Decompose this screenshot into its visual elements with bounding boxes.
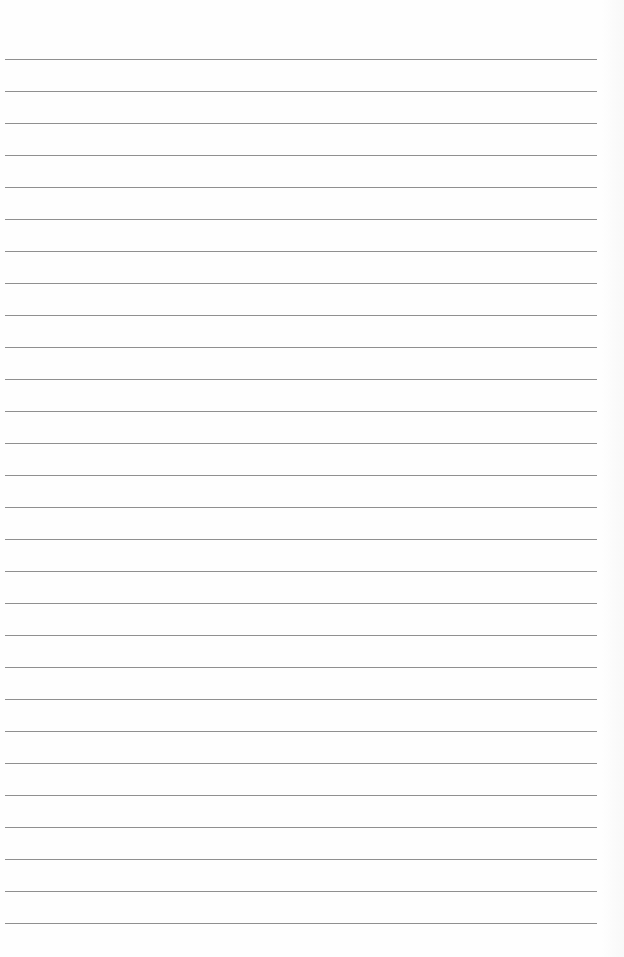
ruled-line	[5, 283, 597, 284]
ruled-line	[5, 571, 597, 572]
ruled-line	[5, 827, 597, 828]
ruled-line	[5, 507, 597, 508]
ruled-line	[5, 603, 597, 604]
ruled-line	[5, 315, 597, 316]
ruled-line	[5, 411, 597, 412]
ruled-line	[5, 667, 597, 668]
ruled-line	[5, 891, 597, 892]
ruled-line	[5, 859, 597, 860]
ruled-line	[5, 155, 597, 156]
ruled-line	[5, 475, 597, 476]
ruled-line	[5, 347, 597, 348]
ruled-line	[5, 91, 597, 92]
ruled-line	[5, 763, 597, 764]
ruled-line	[5, 59, 597, 60]
ruled-line	[5, 731, 597, 732]
ruled-line	[5, 123, 597, 124]
ruled-line	[5, 923, 597, 924]
ruled-line	[5, 699, 597, 700]
ruled-line	[5, 795, 597, 796]
ruled-line	[5, 539, 597, 540]
ruled-line	[5, 635, 597, 636]
ruled-line	[5, 219, 597, 220]
ruled-line	[5, 443, 597, 444]
page-edge-shading	[602, 0, 624, 957]
ruled-line	[5, 187, 597, 188]
ruled-line	[5, 379, 597, 380]
ruled-line	[5, 251, 597, 252]
